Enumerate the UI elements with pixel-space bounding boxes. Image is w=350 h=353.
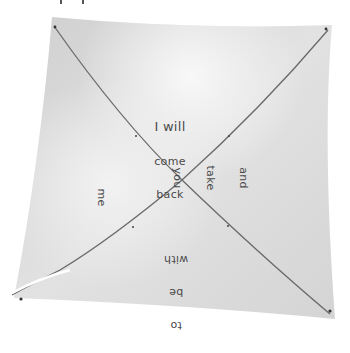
corner-dot [19,297,22,300]
handwriting-line: take [205,151,216,205]
handwriting-right: and take you [150,151,271,205]
handwriting-bottom: to be with [148,232,204,353]
photo: I will come back and take you to be with… [0,0,350,353]
handwriting-line: to [148,320,204,331]
handwriting-line: and [238,151,249,205]
handwriting-line: I will [140,120,200,134]
corner-dot [325,28,328,31]
handwriting-line: with [148,254,204,265]
handwriting-line: you [172,151,183,205]
handwriting-line: me [96,183,107,213]
corner-dot [54,26,57,29]
cropped-text-fragment [58,0,88,4]
handwriting-left: me [74,183,129,213]
corner-dot [328,309,331,312]
handwriting-line: be [148,287,204,298]
